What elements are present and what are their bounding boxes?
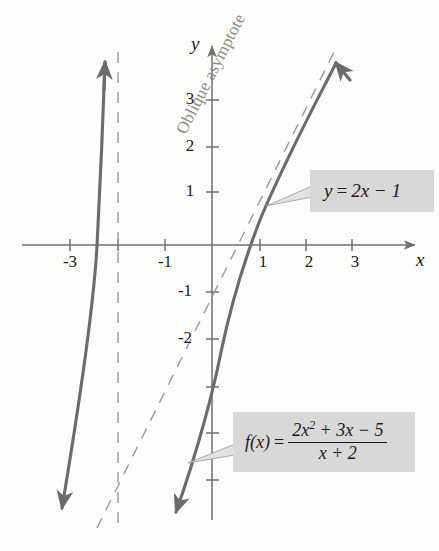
function-numerator: 2x2 + 3x − 5 [288, 421, 387, 442]
line-equation-equals: = [336, 180, 347, 202]
y-axis-label: y [191, 33, 199, 55]
y-tick-label-neg1: -1 [170, 281, 200, 301]
line-equation-callout: y = 2x − 1 [310, 170, 434, 212]
graph-figure: y x -3 -1 1 2 3 3 2 1 -1 -2 Oblique asym… [0, 0, 439, 551]
y-tick-label-neg2: -2 [170, 328, 200, 348]
y-tick-label-1: 1 [175, 181, 205, 201]
x-tick-label-3: 3 [340, 252, 370, 272]
x-tick-label-neg3: -3 [55, 252, 85, 272]
x-tick-label-1: 1 [248, 252, 278, 272]
function-fraction: 2x2 + 3x − 5 x + 2 [288, 421, 387, 463]
x-axis-label: x [416, 249, 424, 271]
function-equation-callout: f(x) = 2x2 + 3x − 5 x + 2 [233, 412, 415, 472]
function-equation-equals: = [274, 432, 284, 453]
line-equation-lhs: y [324, 180, 332, 202]
line-equation: y = 2x − 1 [324, 180, 401, 202]
y-tick-label-2: 2 [175, 136, 205, 156]
function-curve-left-branch-up-arrow [104, 62, 105, 90]
function-curve-left-branch [62, 62, 105, 508]
function-curve-right-branch-up-arrow [336, 63, 350, 80]
function-denominator: x + 2 [315, 443, 361, 463]
x-tick-label-2: 2 [294, 252, 324, 272]
line-equation-rhs: 2x − 1 [351, 180, 401, 202]
x-tick-label-neg1: -1 [150, 252, 180, 272]
function-equation-lhs: f(x) [245, 432, 270, 453]
function-equation: f(x) = 2x2 + 3x − 5 x + 2 [245, 421, 387, 463]
